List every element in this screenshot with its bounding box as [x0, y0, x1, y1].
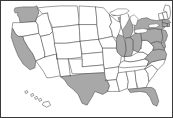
state-ar[interactable]: Arkansas: [105, 67, 119, 81]
state-ks[interactable]: Kansas: [82, 52, 104, 67]
state-mn[interactable]: Minnesota: [96, 7, 113, 39]
states-layer: WashingtonOregonCaliforniaNevadaIdahoMon…: [11, 5, 170, 107]
lake-lake-erie: [134, 29, 148, 34]
state-sd[interactable]: South Dakota: [79, 25, 99, 42]
us-map-figure: WashingtonOregonCaliforniaNevadaIdahoMon…: [0, 0, 173, 118]
state-in[interactable]: Indiana: [124, 37, 133, 57]
state-wy[interactable]: Wyoming: [53, 25, 81, 44]
state-tx[interactable]: Texas: [60, 73, 109, 105]
state-fl[interactable]: Florida: [128, 88, 158, 107]
us-map-svg: WashingtonOregonCaliforniaNevadaIdahoMon…: [1, 1, 172, 117]
state-ne[interactable]: Nebraska: [80, 39, 103, 54]
state-co[interactable]: Colorado: [55, 41, 83, 59]
state-ri[interactable]: Rhode Island: [168, 24, 170, 27]
state-nd[interactable]: North Dakota: [79, 6, 97, 25]
state-ct[interactable]: Connecticut: [163, 23, 168, 27]
state-nj[interactable]: New Jersey: [162, 30, 168, 42]
state-hi[interactable]: Hawaii: [25, 90, 51, 107]
state-wa[interactable]: Washington: [14, 6, 39, 23]
